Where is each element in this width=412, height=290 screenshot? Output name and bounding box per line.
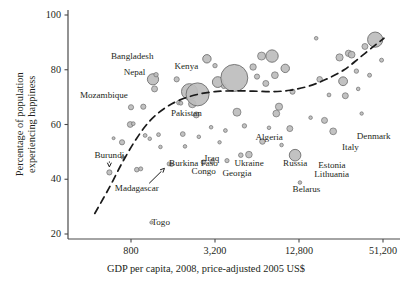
data-point [314,36,318,40]
country-label-nepal: Nepal [124,68,146,77]
country-label-denmark: Denmark [357,132,391,141]
x-tick-label-12800: 12,800 [269,245,329,256]
bubble-chart-figure: BangladeshNepalKenyaMozambiquePakistanBu… [0,0,412,290]
data-point [218,141,221,144]
data-point [112,137,115,140]
data-point [203,55,211,63]
data-point [309,116,313,120]
data-point [263,80,269,86]
data-point [330,128,337,135]
madagascar-arrow [149,168,164,183]
data-point [233,108,241,116]
burundi-arrow [107,161,111,166]
data-point [239,153,244,158]
y-tick-label-20: 20 [0,228,61,239]
data-point [336,54,343,61]
data-point [225,159,229,163]
data-point [179,101,183,105]
data-point [180,132,185,137]
data-point [281,64,289,72]
country-label-madagascar: Madagascar [115,184,159,193]
data-point [224,129,228,133]
country-label-togo: Togo [151,218,170,227]
axes-group [65,10,401,243]
country-label-congo: Congo [192,167,216,176]
data-point [254,74,259,79]
data-point [197,135,201,139]
data-point [143,134,147,138]
data-point [131,122,135,126]
data-point [275,103,282,110]
data-point [209,125,213,129]
data-point [322,117,328,123]
data-point [159,145,163,149]
data-point [272,72,279,79]
y-axis-title-line2: experiencing happiness [26,49,38,199]
x-axis-title: GDP per capita, 2008, price-adjusted 200… [0,263,412,274]
y-axis-title: Percentage of populationexperiencing hap… [14,49,39,199]
data-point [356,87,360,91]
x-tick-label-51200: 51,200 [353,245,412,256]
data-point [246,151,253,158]
data-point [221,64,248,91]
data-point [141,104,146,109]
country-label-italy: Italy [342,143,359,152]
x-tick-label-3200: 3,200 [185,245,245,256]
data-point [183,145,187,149]
data-point [139,167,143,171]
annotation-arrows [107,161,164,183]
country-label-burundi: Burundi [94,151,124,160]
x-tick-label-800: 800 [101,245,161,256]
data-point [327,93,331,97]
data-point [267,126,271,130]
country-label-lithuania: Lithuania [314,170,349,179]
data-point [107,170,112,175]
country-label-belarus: Belarus [293,185,321,194]
country-label-kenya: Kenya [175,62,199,71]
data-point [213,63,217,67]
data-point [266,50,278,62]
country-label-iraq: Iraq [205,154,220,163]
country-label-pakistan: Pakistan [171,109,202,118]
data-point [250,64,256,70]
data-point [154,72,158,76]
data-point [128,105,133,110]
y-tick-label-100: 100 [0,9,61,20]
data-point [258,52,266,60]
data-point [134,167,139,172]
data-point [360,112,363,115]
country-label-algeria: Algeria [256,133,283,142]
data-point [287,126,293,132]
data-point [342,93,348,99]
data-point [119,140,124,145]
data-point [174,77,179,82]
country-label-bangladesh: Bangladesh [111,52,153,61]
data-point [157,133,161,137]
data-point [152,86,158,92]
data-point [280,143,284,147]
data-point [242,124,246,128]
data-point [348,51,355,58]
country-label-georgia: Georgia [223,169,252,178]
y-axis-title-line1: Percentage of population [14,49,26,199]
data-point [368,73,372,77]
data-point [148,137,152,141]
country-label-ukraine: Ukraine [234,159,263,168]
data-point [354,69,358,73]
country-label-russia: Russia [283,159,307,168]
data-point [380,58,384,62]
data-point [273,110,280,117]
country-label-mozambique: Mozambique [80,91,128,100]
data-point [362,43,368,49]
data-point [339,77,348,86]
